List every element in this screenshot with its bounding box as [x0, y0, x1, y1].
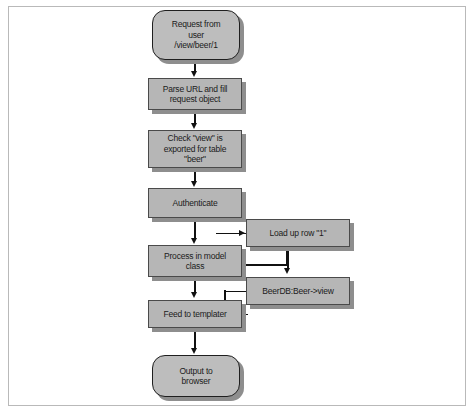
node-feed-to-templater: Feed to templater	[148, 300, 242, 328]
edge-model-to-loadrow-arrowhead	[239, 230, 245, 236]
node-request-from-user-label: Request fromuser/view/beer/1	[169, 19, 224, 51]
edge-templater-to-output-arrowhead	[191, 348, 197, 354]
node-authenticate-label: Authenticate	[170, 198, 221, 209]
edge-model-to-templater	[194, 277, 196, 293]
edge-loadrow-to-beerdb-arrowhead	[284, 268, 290, 274]
node-process-in-model-class-label: Process in modelclass	[161, 251, 229, 272]
node-load-up-row: Load up row "1"	[246, 219, 350, 247]
edge-authenticate-to-model	[194, 218, 196, 239]
node-check-view-exported-label: Check "view" isexported for table"beer"	[161, 133, 230, 165]
edge-model-to-templater-arrowhead	[191, 292, 197, 298]
node-check-view-exported: Check "view" isexported for table"beer"	[148, 130, 242, 168]
edge-templater-to-output	[194, 328, 196, 349]
edge-check-to-authenticate	[194, 168, 196, 182]
node-load-up-row-label: Load up row "1"	[267, 228, 330, 239]
diagram-canvas: Request fromuser/view/beer/1 Parse URL a…	[0, 0, 476, 419]
edge-parse-to-check-arrowhead	[191, 123, 197, 129]
node-output-to-browser-label: Output tobrowser	[176, 366, 215, 387]
edge-check-to-authenticate-arrowhead	[191, 181, 197, 187]
node-beerdb-beer-view-label: BeerDB:Beer->view	[259, 286, 336, 297]
node-authenticate: Authenticate	[148, 188, 242, 218]
edge-loadrow-to-beerdb	[287, 247, 289, 269]
node-beerdb-beer-view: BeerDB:Beer->view	[246, 277, 350, 305]
edge-request-to-parse-arrowhead	[191, 71, 197, 77]
node-feed-to-templater-label: Feed to templater	[160, 309, 229, 320]
edge-model-to-loadrow-segment-right	[242, 264, 288, 266]
edge-beerdb-to-templater-segment-left	[224, 291, 248, 293]
node-parse-url-label: Parse URL and fillrequest object	[160, 84, 231, 105]
node-parse-url: Parse URL and fillrequest object	[148, 78, 242, 110]
node-process-in-model-class: Process in modelclass	[148, 245, 242, 277]
node-request-from-user: Request fromuser/view/beer/1	[152, 10, 240, 60]
edge-authenticate-to-model-arrowhead	[191, 238, 197, 244]
node-output-to-browser: Output tobrowser	[152, 355, 240, 397]
edge-parse-to-check	[194, 110, 196, 124]
